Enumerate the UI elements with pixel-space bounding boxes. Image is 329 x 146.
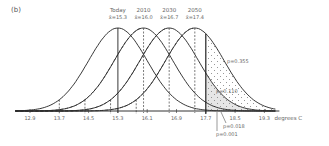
- series-name-2010: 2010: [137, 7, 151, 13]
- tick-label: 17.7: [200, 115, 211, 121]
- series-mean-2050: x̄=17.4: [186, 14, 204, 20]
- series-name-2050: 2050: [188, 7, 202, 13]
- tick-label: 19.3: [259, 115, 270, 121]
- shade-2050: [206, 34, 276, 111]
- p-label: p=0.001: [216, 131, 238, 138]
- tick-label: 14.5: [83, 115, 94, 121]
- series-name-Today: Today: [109, 7, 127, 14]
- series-mean-2010: x̄=16.0: [134, 14, 152, 20]
- tick-label: 15.3: [112, 115, 123, 121]
- tick-label: 12.9: [24, 115, 35, 121]
- exceedance-shading: [206, 34, 276, 111]
- leader-line: [221, 112, 226, 123]
- p-label: p=0.110: [216, 88, 238, 95]
- series-mean-Today: x̄=15.3: [109, 14, 127, 20]
- tick-label: 16.1: [142, 115, 153, 121]
- dashed-tail-2050: [15, 28, 193, 111]
- x-axis-label: degrees C: [274, 115, 302, 122]
- series-labels: Todayx̄=15.32010x̄=16.02030x̄=16.72050x̄…: [109, 7, 204, 20]
- dashed-tail-2010: [15, 28, 141, 111]
- tick-label: 18.5: [230, 115, 241, 121]
- mean-lines: [118, 28, 195, 113]
- p-label: p=0.355: [227, 58, 249, 65]
- tick-label: 16.9: [171, 115, 182, 121]
- tick-label: 13.7: [54, 115, 65, 121]
- series-mean-2030: x̄=16.7: [160, 14, 178, 20]
- p-label: p=0.018: [223, 123, 245, 130]
- series-name-2030: 2030: [162, 7, 176, 13]
- normal-distribution-chart: 12.913.714.515.316.116.917.718.519.3 Tod…: [0, 0, 329, 146]
- dashed-tail-2030: [15, 28, 167, 111]
- sigma-dashed-lines: [15, 28, 193, 114]
